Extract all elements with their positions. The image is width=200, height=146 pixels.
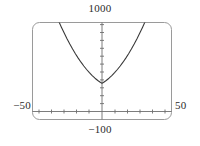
y-axis-max-label: 1000 bbox=[0, 3, 200, 14]
parabola-figure: 1000 −100 −50 50 bbox=[0, 0, 200, 146]
y-axis-min-label: −100 bbox=[0, 124, 200, 135]
x-axis-min-label: −50 bbox=[2, 100, 31, 111]
x-axis-max-label: 50 bbox=[175, 100, 199, 111]
